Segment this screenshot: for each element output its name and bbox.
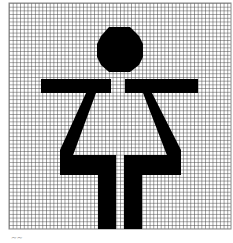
pixel-grid-figure — [0, 0, 233, 243]
left-leg-shape — [98, 170, 116, 229]
right-leg-shape — [124, 170, 142, 229]
caption-mark: ~~ — [11, 234, 23, 242]
head-shape — [97, 27, 143, 72]
